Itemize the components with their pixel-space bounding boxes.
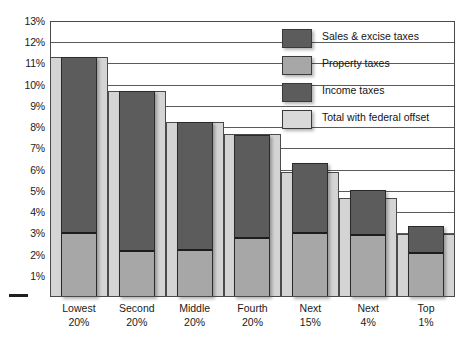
x-tick-label-line1: Fourth	[237, 302, 267, 314]
y-tick-label: 4%	[30, 206, 45, 218]
y-tick-label: 2%	[30, 249, 45, 261]
x-tick-label-line2: 15%	[281, 315, 339, 329]
y-tick-label: 11%	[25, 57, 45, 69]
legend-label: Property taxes	[322, 57, 390, 69]
x-tick-label-line1: Top	[418, 302, 435, 314]
x-tick-label-line2: 1%	[397, 315, 455, 329]
legend-item: Sales & excise taxes	[282, 27, 468, 54]
legend-item: Property taxes	[282, 54, 468, 81]
x-tick-label: Middle20%	[166, 301, 224, 329]
legend-swatch	[282, 83, 312, 102]
x-tick-label: Next4%	[339, 301, 397, 329]
y-tick-label: 5%	[30, 185, 45, 197]
legend-item: Total with federal offset	[282, 108, 468, 135]
x-tick-label-line1: Next	[357, 302, 379, 314]
y-axis-labels: 13%12%11%10%9%8%7%6%5%4%3%2%1%	[0, 21, 45, 297]
x-tick-label: Next15%	[281, 301, 339, 329]
x-tick-label-line2: 20%	[50, 315, 108, 329]
y-tick-label: 3%	[30, 227, 45, 239]
x-tick-label-line2: 4%	[339, 315, 397, 329]
y-tick-label: 12%	[25, 36, 45, 48]
x-tick-label: Lowest20%	[50, 301, 108, 329]
x-tick-label-line1: Next	[300, 302, 322, 314]
y-tick-label: 13%	[25, 15, 45, 27]
legend-swatch	[282, 29, 312, 48]
x-tick-label: Fourth20%	[224, 301, 282, 329]
y-tick-label: 7%	[30, 142, 45, 154]
y-tick-label: 6%	[30, 164, 45, 176]
x-tick-label: Second20%	[108, 301, 166, 329]
x-tick-label-line1: Second	[119, 302, 155, 314]
x-tick-label-line2: 20%	[166, 315, 224, 329]
chart-legend: Sales & excise taxesProperty taxesIncome…	[282, 27, 468, 135]
legend-swatch	[282, 56, 312, 75]
x-tick-label-line2: 20%	[108, 315, 166, 329]
x-tick-label-line1: Middle	[179, 302, 210, 314]
x-tick-label-line2: 20%	[224, 315, 282, 329]
chart-root: 13%12%11%10%9%8%7%6%5%4%3%2%1% Lowest20%…	[0, 0, 470, 345]
y-axis-zero-stub	[9, 294, 28, 297]
legend-swatch	[282, 110, 312, 129]
legend-label: Income taxes	[322, 84, 384, 96]
y-tick-label: 1%	[30, 270, 45, 282]
y-tick-label: 8%	[30, 121, 45, 133]
x-axis-labels: Lowest20%Second20%Middle20%Fourth20%Next…	[50, 301, 455, 345]
legend-label: Sales & excise taxes	[322, 30, 419, 42]
x-tick-label-line1: Lowest	[62, 302, 95, 314]
legend-item: Income taxes	[282, 81, 468, 108]
x-tick-label: Top1%	[397, 301, 455, 329]
y-tick-label: 10%	[25, 79, 45, 91]
legend-label: Total with federal offset	[322, 111, 429, 123]
y-tick-label: 9%	[30, 100, 45, 112]
